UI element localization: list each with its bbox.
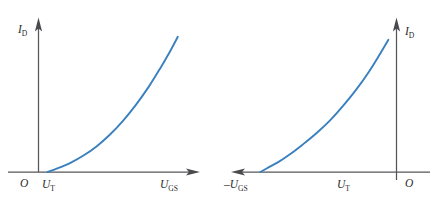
right-y-axis-label: ID — [404, 25, 415, 40]
left-plot: ID UGS O UT — [8, 18, 200, 194]
right-plot: ID –UGS UT O — [223, 18, 430, 194]
figure-container: ID UGS O UT ID –UGS UT O — [0, 0, 438, 197]
left-x-axis-label: UGS — [160, 178, 178, 193]
mosfet-transfer-characteristics-figure: ID UGS O UT ID –UGS UT O — [0, 0, 438, 197]
right-curve — [260, 40, 388, 172]
right-x-axis-label: –UGS — [223, 178, 248, 193]
left-origin-label: O — [20, 177, 29, 189]
left-y-axis-label: ID — [17, 23, 28, 38]
right-y-axis — [393, 18, 400, 181]
left-x-axis — [8, 168, 200, 175]
left-y-axis — [35, 18, 42, 173]
left-threshold-label: UT — [42, 178, 55, 193]
right-origin-label: O — [405, 177, 414, 189]
right-threshold-label: UT — [337, 178, 350, 193]
left-curve — [47, 37, 177, 172]
